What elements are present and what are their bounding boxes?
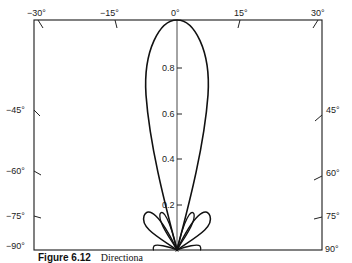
chart-frame: [34, 20, 322, 250]
tick-label-top-0: 0°: [171, 8, 180, 18]
tick-label-left-neg60: −60°: [6, 166, 25, 176]
top-angle-ticks: [38, 20, 318, 28]
radial-label-0-4: 0.4: [162, 154, 175, 164]
tick-label-top-neg15: −15°: [100, 8, 119, 18]
caption-text: Directiona: [101, 252, 143, 263]
right-angle-ticks: [314, 115, 322, 219]
tick-label-left-neg45: −45°: [6, 105, 25, 115]
left-angle-ticks: [34, 110, 41, 218]
tick-label-right-75: 75°: [326, 211, 340, 221]
tick-label-right-60: 60°: [326, 168, 340, 178]
tick-label-top-15: 15°: [234, 8, 248, 18]
tick-label-right-45: 45°: [326, 105, 340, 115]
tick-label-right-90: 90°: [325, 244, 339, 254]
polar-pattern-chart: −30° −15° 0° 15° 30° −45° −60° −75° −90°…: [0, 0, 352, 263]
radial-label-0-8: 0.8: [162, 63, 175, 73]
figure-label: Figure 6.12: [38, 252, 91, 263]
tick-label-top-30: 30°: [311, 8, 325, 18]
tick-label-left-neg90: −90°: [6, 241, 25, 251]
tick-label-left-neg75: −75°: [6, 211, 25, 221]
radial-label-0-6: 0.6: [162, 109, 175, 119]
figure-caption: Figure 6.12 Directiona: [38, 252, 143, 263]
radial-ticks: [177, 68, 182, 205]
tick-label-top-neg30: −30°: [27, 8, 46, 18]
